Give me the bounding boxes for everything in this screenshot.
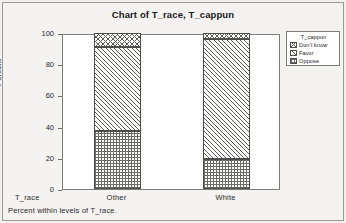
legend-entry[interactable]: Don't know (290, 42, 337, 49)
legend: T_cappun Don't knowFavorOppose (286, 31, 340, 66)
bars-layer (63, 35, 279, 189)
x-tick-label-white: White (196, 193, 256, 202)
x-tick-label-other: Other (87, 193, 147, 202)
y-axis-title: Percent (0, 59, 3, 86)
y-tick-mark (58, 190, 62, 191)
y-tick-label: 20 (32, 155, 54, 163)
y-tick-label: 100 (32, 30, 54, 38)
legend-entry[interactable]: Oppose (290, 58, 337, 65)
plot-area (62, 34, 280, 190)
legend-entry[interactable]: Favor (290, 50, 337, 57)
bar-stack[interactable] (203, 33, 250, 189)
bar-segment[interactable] (203, 159, 250, 189)
bar-segment[interactable] (94, 131, 141, 189)
y-tick-label: 60 (32, 92, 54, 100)
chart-footnote: Percent within levels of T_race. (8, 206, 117, 215)
legend-swatch-icon (290, 42, 297, 49)
bar-segment[interactable] (203, 33, 250, 39)
bar-stack[interactable] (94, 33, 141, 189)
y-tick-label: 80 (32, 61, 54, 69)
bar-segment[interactable] (203, 39, 250, 159)
legend-swatch-icon (290, 50, 297, 57)
legend-swatch-icon (290, 58, 297, 65)
legend-title: T_cappun (290, 34, 337, 40)
chart-title: Chart of T_race, T_cappun (0, 9, 346, 20)
legend-label: Oppose (299, 58, 319, 64)
x-axis-title: T_race (15, 193, 40, 202)
y-tick-label: 40 (32, 124, 54, 132)
chart-window: Chart of T_race, T_cappun Percent 020406… (0, 0, 346, 223)
legend-label: Don't know (299, 42, 328, 48)
legend-label: Favor (299, 50, 314, 56)
bar-segment[interactable] (94, 47, 141, 131)
bar-segment[interactable] (94, 33, 141, 47)
legend-entries: Don't knowFavorOppose (290, 42, 337, 65)
